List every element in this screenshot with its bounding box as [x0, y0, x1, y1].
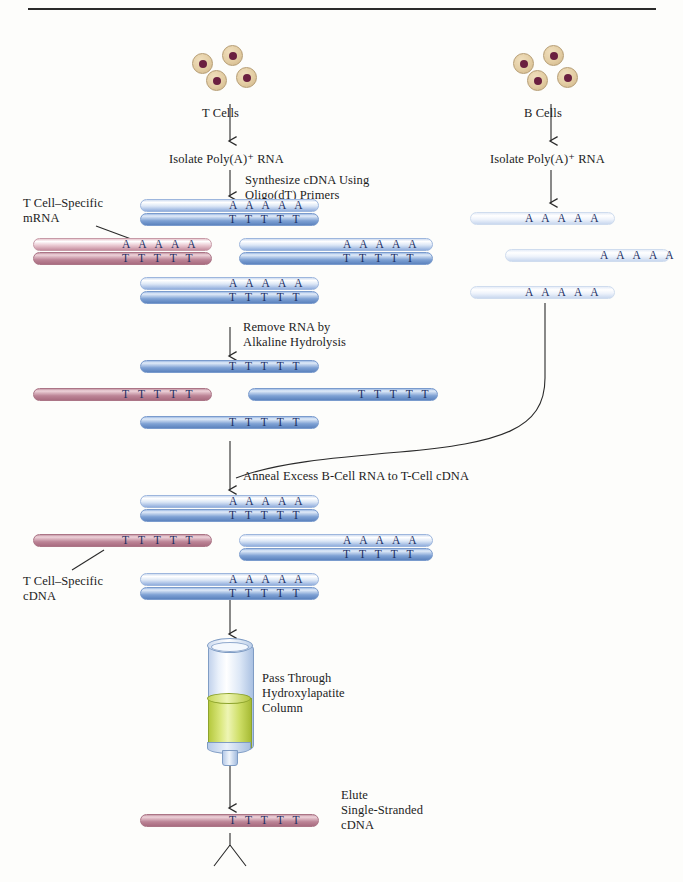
- oligo-dt-bases: T T T T T: [343, 252, 417, 265]
- step-isolate-right: Isolate Poly(A)⁺ RNA: [490, 152, 605, 167]
- poly-a-bases: A A A A A: [525, 212, 602, 225]
- bcell: [527, 70, 548, 91]
- oligo-dt-bases: T T T T T: [122, 534, 196, 547]
- step-remove-rna: Remove RNA by Alkaline Hydrolysis: [243, 320, 346, 350]
- poly-a-bases: A A A A A: [229, 495, 306, 508]
- poly-a-bases: A A A A A: [122, 238, 199, 251]
- poly-a-bases: A A A A A: [229, 199, 306, 212]
- step-isolate-left: Isolate Poly(A)⁺ RNA: [169, 152, 284, 167]
- connector-overlay: [0, 0, 683, 882]
- column-media-surface: [207, 693, 251, 704]
- oligo-dt-bases: T T T T T: [229, 814, 303, 827]
- poly-a-bases: A A A A A: [525, 286, 602, 299]
- bcell: [543, 45, 564, 66]
- tcell: [222, 45, 243, 66]
- leader-line-cdna: [72, 550, 104, 570]
- poly-a-bases: A A A A A: [229, 277, 306, 290]
- column-spout: [222, 750, 238, 766]
- callout-tcell-specific-cdna: T Cell–Specific cDNA: [23, 574, 103, 604]
- oligo-dt-bases: T T T T T: [122, 388, 196, 401]
- column-media: [208, 698, 252, 748]
- tcell-cluster: [192, 45, 270, 91]
- step-pass-column: Pass Through Hydroxylapatite Column: [262, 671, 345, 716]
- poly-a-bases: A A A A A: [229, 573, 306, 586]
- oligo-dt-bases: T T T T T: [229, 291, 303, 304]
- poly-a-bases: A A A A A: [343, 238, 420, 251]
- oligo-dt-bases: T T T T T: [229, 587, 303, 600]
- step-elute: Elute Single-Stranded cDNA: [341, 788, 423, 833]
- poly-a-bases: A A A A A: [600, 249, 677, 262]
- tcell: [206, 70, 227, 91]
- step-anneal: Anneal Excess B-Cell RNA to T-Cell cDNA: [243, 469, 469, 484]
- oligo-dt-bases: T T T T T: [358, 388, 432, 401]
- hydroxylapatite-column: [208, 638, 254, 768]
- terminal-fork: [214, 833, 246, 866]
- bcell: [557, 67, 578, 88]
- tcell: [236, 67, 257, 88]
- oligo-dt-bases: T T T T T: [122, 252, 196, 265]
- bcell-cluster: [513, 45, 591, 91]
- poly-a-bases: A A A A A: [343, 534, 420, 547]
- top-rule: [28, 8, 656, 10]
- oligo-dt-bases: T T T T T: [229, 509, 303, 522]
- callout-tcell-specific-mrna: T Cell–Specific mRNA: [23, 196, 103, 226]
- oligo-dt-bases: T T T T T: [343, 548, 417, 561]
- bcells-label: B Cells: [524, 106, 562, 121]
- oligo-dt-bases: T T T T T: [229, 213, 303, 226]
- column-rim-inner: [211, 642, 249, 652]
- oligo-dt-bases: T T T T T: [229, 360, 303, 373]
- tcells-label: T Cells: [202, 106, 239, 121]
- figure-canvas: T Cells B Cells Isolate Poly(A)⁺ RNA Syn…: [0, 0, 683, 882]
- oligo-dt-bases: T T T T T: [229, 416, 303, 429]
